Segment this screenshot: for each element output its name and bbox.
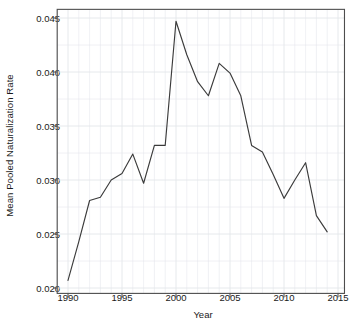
x-tick-label: 2015: [318, 292, 357, 303]
x-axis-tick-labels: 199019952000200520102015: [0, 292, 357, 310]
x-tick-label: 2005: [210, 292, 250, 303]
x-axis-label: Year: [68, 309, 338, 320]
x-tick-label: 1995: [102, 292, 142, 303]
chart-figure: Mean Pooled Naturalization Rate 0.0200.0…: [0, 0, 357, 329]
grid-minor-lines: [57, 9, 344, 293]
x-tick-label: 2000: [156, 292, 196, 303]
x-tick-label: 2010: [264, 292, 304, 303]
x-tick-label: 1990: [48, 292, 88, 303]
axis-tick-marks: [53, 18, 338, 297]
plot-area: [0, 0, 357, 329]
